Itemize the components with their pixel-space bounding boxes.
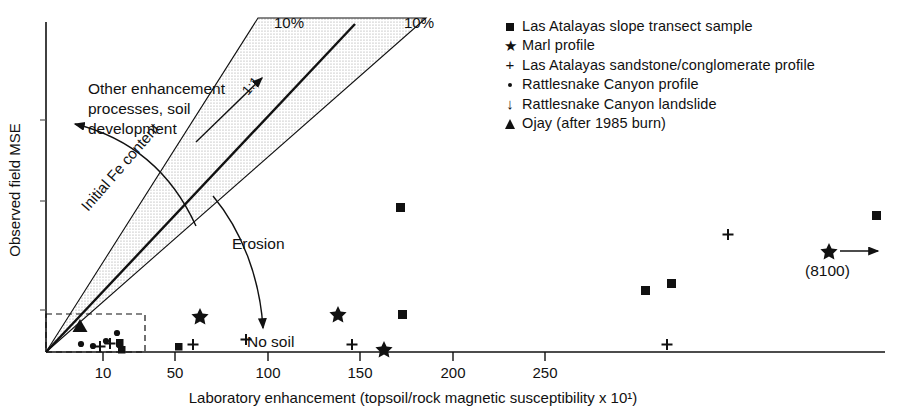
enhancement-callout-line1: Other enhancement xyxy=(88,80,226,97)
x-tick-label-0: 10 xyxy=(95,364,112,381)
erosion-label: Erosion xyxy=(232,235,285,252)
legend-label: Ojay (after 1985 burn) xyxy=(522,115,666,131)
x-tick-label-3: 150 xyxy=(347,364,372,381)
y-axis-title: Observed field MSE xyxy=(6,123,23,256)
x-tick-label-2: 100 xyxy=(255,364,280,381)
offscale-value-label: (8100) xyxy=(805,262,850,279)
square-marker-icon xyxy=(498,19,522,32)
dot-marker-icon xyxy=(498,78,522,91)
x-axis-ticks xyxy=(103,352,545,361)
legend-label: Rattlesnake Canyon profile xyxy=(522,76,699,92)
erosion-callout-arrow xyxy=(213,196,263,328)
x-tick-label-5: 250 xyxy=(532,364,557,381)
legend-item-rattlesnake-landslide: ↓ Rattlesnake Canyon landslide xyxy=(498,94,894,114)
x-tick-label-4: 200 xyxy=(440,364,465,381)
legend: Las Atalayas slope transect sample ★ Mar… xyxy=(498,16,894,133)
series-plus-markers xyxy=(95,229,734,352)
enhancement-callout-line3: development xyxy=(88,120,177,137)
enhancement-callout-line2: processes, soil xyxy=(88,100,191,117)
legend-item-marl-profile: ★ Marl profile xyxy=(498,36,894,56)
no-soil-label: No soil xyxy=(247,333,294,350)
legend-item-ojay-burn: Ojay (after 1985 burn) xyxy=(498,114,894,134)
x-axis-title: Laboratory enhancement (topsoil/rock mag… xyxy=(189,389,638,406)
legend-label: Las Atalayas sandstone/conglomerate prof… xyxy=(522,57,815,73)
down-arrow-marker-icon: ↓ xyxy=(498,96,522,111)
legend-label: Las Atalayas slope transect sample xyxy=(522,18,753,34)
legend-label: Rattlesnake Canyon landslide xyxy=(522,96,717,112)
legend-item-slope-transect: Las Atalayas slope transect sample xyxy=(498,16,894,36)
series-square-markers xyxy=(116,203,881,354)
plus-marker-icon: + xyxy=(498,57,522,72)
x-tick-label-1: 50 xyxy=(167,364,184,381)
figure-root: 10% 10% 1:1 Initial Fe content xyxy=(0,0,899,413)
triangle-marker-icon xyxy=(498,117,522,130)
star-marker-icon: ★ xyxy=(498,38,522,53)
y-axis-ticks xyxy=(40,120,46,310)
legend-label: Marl profile xyxy=(522,37,595,53)
legend-item-rattlesnake-profile: Rattlesnake Canyon profile xyxy=(498,75,894,95)
band-upper-label: 10% xyxy=(274,14,304,31)
legend-item-sandstone-profile: + Las Atalayas sandstone/conglomerate pr… xyxy=(498,55,894,75)
band-lower-label: 10% xyxy=(404,14,434,31)
